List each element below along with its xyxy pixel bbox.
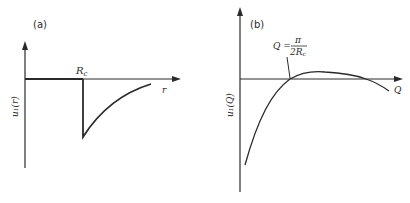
panel-b-annotation-leader (287, 57, 290, 78)
panel-a-curve (83, 79, 151, 137)
panel-a-label: (a) (33, 19, 47, 30)
panel-a-y-label: u₁(r) (10, 96, 20, 117)
panel-b-y-label: u₁(Q) (225, 93, 235, 117)
panel-a: (a) Rc r u₁(r) (10, 19, 181, 168)
annotation-lhs: Q = (273, 41, 291, 51)
panel-a-y-axis-arrow-icon (22, 41, 28, 50)
panel-b-annotation: Q = π 2Rc (273, 35, 307, 57)
panel-b-x-axis-arrow-icon (394, 76, 403, 82)
annotation-numerator: π (294, 35, 302, 45)
figure-canvas: (a) Rc r u₁(r) (b) Q = π 2Rc (0, 0, 410, 203)
panel-a-x-label: r (162, 85, 167, 95)
panel-b-curve (245, 72, 389, 165)
panel-a-x-axis-arrow-icon (172, 76, 181, 82)
annotation-denominator: 2Rc (289, 47, 307, 57)
panel-b: (b) Q = π 2Rc Q u₁(Q) (225, 7, 403, 192)
panel-b-y-axis-arrow-icon (237, 7, 243, 16)
panel-b-label: (b) (250, 19, 264, 30)
panel-a-marker-label: Rc (75, 65, 88, 78)
panel-b-x-label: Q (394, 85, 402, 95)
